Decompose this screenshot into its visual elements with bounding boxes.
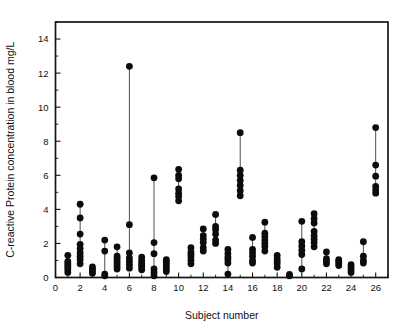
subject-series — [163, 256, 170, 275]
x-tick-label: 12 — [198, 282, 209, 293]
figure-container: 02468101214 02468101214161820222426 Subj… — [0, 0, 403, 332]
x-tick-label: 2 — [77, 282, 82, 293]
data-point — [372, 124, 379, 131]
y-tick-label: 0 — [43, 272, 48, 283]
data-point — [77, 241, 84, 248]
subject-series — [335, 256, 342, 269]
x-tick-label: 10 — [173, 282, 184, 293]
x-tick-label: 24 — [346, 282, 357, 293]
data-point — [175, 186, 182, 193]
scatter-plot: 02468101214 02468101214161820222426 Subj… — [0, 0, 403, 332]
x-tick-label: 18 — [272, 282, 283, 293]
data-point — [311, 228, 318, 235]
data-point — [151, 266, 158, 273]
x-tick-label: 8 — [151, 282, 156, 293]
data-point — [200, 232, 207, 239]
data-point — [372, 183, 379, 190]
subject-series — [138, 254, 145, 274]
subject-series — [261, 219, 268, 255]
subject-series — [114, 243, 121, 272]
data-point — [64, 258, 71, 265]
subject-series — [286, 271, 293, 279]
data-point — [212, 223, 219, 230]
data-point — [237, 167, 244, 174]
data-point — [372, 162, 379, 169]
data-point — [64, 252, 71, 259]
y-tick-label: 14 — [38, 33, 49, 44]
subject-series — [348, 261, 355, 275]
subject-series — [249, 234, 256, 266]
data-point — [126, 63, 133, 70]
data-point — [151, 174, 158, 181]
data-point — [89, 264, 96, 271]
data-point — [274, 252, 281, 259]
data-point — [101, 271, 108, 278]
y-tick-label: 4 — [43, 204, 48, 215]
data-point — [188, 244, 195, 251]
y-tick-label: 8 — [43, 136, 48, 147]
data-point — [249, 246, 256, 253]
data-point — [335, 256, 342, 263]
y-tick-label: 2 — [43, 238, 48, 249]
data-point — [298, 266, 305, 273]
data-point — [360, 253, 367, 260]
data-point — [114, 253, 121, 260]
data-point — [101, 248, 108, 255]
subject-series — [188, 244, 195, 267]
data-point — [261, 230, 268, 237]
y-tick-label: 6 — [43, 170, 48, 181]
data-point — [298, 238, 305, 245]
y-axis-title: C-reactive Protein concentration in bloo… — [4, 42, 16, 258]
data-point — [138, 254, 145, 261]
data-point — [323, 255, 330, 262]
data-point — [225, 246, 232, 253]
data-point — [77, 214, 84, 221]
data-point — [212, 211, 219, 218]
data-point — [77, 201, 84, 208]
x-tick-label: 22 — [321, 282, 332, 293]
data-point — [323, 249, 330, 256]
subject-series — [89, 264, 96, 277]
data-point — [200, 226, 207, 233]
data-point — [163, 256, 170, 263]
y-tick-label: 10 — [38, 102, 49, 113]
data-point — [372, 173, 379, 180]
data-point — [311, 210, 318, 217]
data-point — [237, 129, 244, 136]
data-point — [175, 166, 182, 173]
x-tick-label: 14 — [223, 282, 234, 293]
x-tick-label: 20 — [297, 282, 308, 293]
data-point — [126, 249, 133, 256]
data-point — [249, 234, 256, 241]
x-tick-label: 16 — [247, 282, 258, 293]
data-point — [360, 238, 367, 245]
x-axis-title: Subject number — [185, 309, 259, 321]
subject-series — [323, 249, 330, 268]
data-point — [126, 221, 133, 228]
data-point — [114, 243, 121, 250]
subject-series — [225, 246, 232, 277]
subject-series — [274, 252, 281, 271]
x-tick-label: 4 — [102, 282, 107, 293]
data-point — [286, 271, 293, 278]
data-point — [151, 250, 158, 257]
data-point — [348, 261, 355, 268]
subject-series — [64, 252, 71, 276]
data-point — [212, 237, 219, 244]
data-point — [261, 219, 268, 226]
data-point — [298, 218, 305, 225]
data-point — [225, 271, 232, 278]
subject-series — [212, 211, 219, 247]
x-tick-label: 0 — [53, 282, 58, 293]
subject-series — [200, 226, 207, 255]
data-point — [101, 237, 108, 244]
x-tick-label: 26 — [370, 282, 381, 293]
y-tick-label: 12 — [38, 68, 49, 79]
data-point — [77, 231, 84, 238]
data-point — [175, 172, 182, 179]
data-point — [151, 239, 158, 246]
x-tick-label: 6 — [127, 282, 132, 293]
